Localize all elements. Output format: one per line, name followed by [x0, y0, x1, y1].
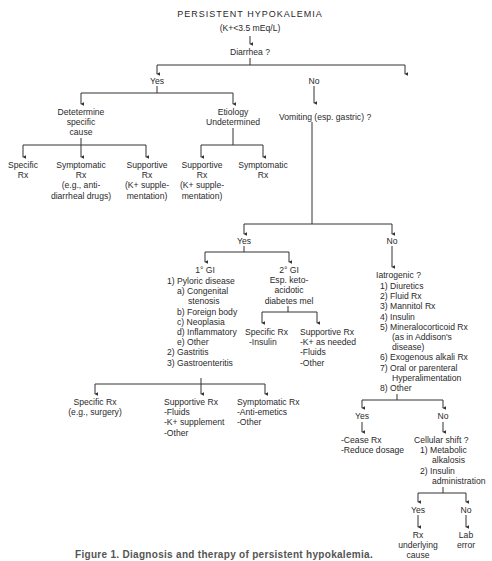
label-iatrogenic-yes: Yes	[342, 411, 382, 421]
node-primary-specific-rx: Specific Rx (e.g., surgery)	[62, 397, 128, 417]
list-item: 2) Gastritis	[167, 347, 237, 357]
node-secondary-gi: 2° GI Esp. keto- acidotic diabetes mel	[259, 265, 319, 306]
node-heading: Cellular shift ?	[414, 435, 486, 445]
node-line: cause	[393, 550, 443, 560]
list-item: 1) Diuretics	[380, 281, 468, 291]
node-line: -Other	[237, 417, 300, 427]
list-item: e) Other	[167, 337, 237, 347]
node-line: Detetermine	[46, 107, 116, 117]
list-item: 2) Fluid Rx	[380, 291, 468, 301]
node-line: Specific	[0, 160, 46, 170]
label-iatrogenic-no: No	[423, 411, 463, 421]
node-line: Rx	[46, 170, 116, 180]
list-item: d) Inflammatory	[167, 327, 237, 337]
node-line: -Reduce dosage	[341, 445, 404, 455]
list-iatrogenic-causes: 1) Diuretics 2) Fluid Rx 3) Mannitol Rx …	[380, 281, 468, 393]
list-item: 4) Insulin	[380, 312, 468, 322]
node-line: (e.g., anti-	[46, 180, 116, 190]
node-cellular-shift: Cellular shift ? 1) Metabolic alkalosis …	[414, 435, 486, 486]
node-primary-supportive-rx: Supportive Rx -Fluids -K+ supplement -Ot…	[164, 397, 224, 438]
node-rx-underlying-cause: Rx underlying cause	[393, 530, 443, 561]
node-line: Specific Rx	[62, 397, 128, 407]
figure-caption: Figure 1. Diagnosis and therapy of persi…	[75, 549, 373, 560]
node-etiology-undetermined: Etiology Undetermined	[193, 107, 273, 127]
node-line: Specific Rx	[245, 327, 288, 337]
node-supportive-rx: Supportive Rx (K+ supple- mentation)	[117, 160, 177, 201]
node-line: -Anti-emetics	[237, 407, 300, 417]
node-line: Undetermined	[193, 117, 273, 127]
label-vomiting-yes: Yes	[224, 236, 264, 246]
node-line: mentation)	[172, 191, 232, 201]
node-primary-symptomatic-rx: Symptomatic Rx -Anti-emetics -Other	[237, 397, 300, 428]
node-line: Rx	[393, 530, 443, 540]
list-item: 1) Pyloric disease	[167, 276, 237, 286]
list-item: alkalosis	[414, 455, 486, 465]
list-item: administration	[414, 476, 486, 486]
node-iatrogenic-yes-actions: -Cease Rx -Reduce dosage	[341, 435, 404, 455]
node-line: Symptomatic	[233, 160, 293, 170]
node-line: (e.g., surgery)	[62, 407, 128, 417]
node-line: -Fluids	[164, 407, 224, 417]
list-primary-gi-causes: 1) Pyloric disease a) Congenital stenosi…	[167, 276, 237, 368]
node-line: -Cease Rx	[341, 435, 404, 445]
chart-title: PERSISTENT HYPOKALEMIA	[150, 9, 350, 19]
list-item: 3) Gastroenteritis	[167, 358, 237, 368]
node-line: Supportive Rx	[164, 397, 224, 407]
node-line: Supportive Rx	[300, 327, 356, 337]
node-line: Rx	[172, 170, 232, 180]
node-line: Supportive	[172, 160, 232, 170]
node-line: diarrheal drugs)	[46, 191, 116, 201]
node-line: cause	[46, 127, 116, 137]
question-iatrogenic: Iatrogenic ?	[376, 270, 421, 280]
question-diarrhea: Diarrhea ?	[200, 47, 300, 57]
label-cellular-shift-no: No	[446, 505, 486, 515]
list-item: 3) Mannitol Rx	[380, 301, 468, 311]
list-item: stenosis	[167, 296, 237, 306]
list-item: disease)	[380, 342, 468, 352]
node-secondary-supportive-rx: Supportive Rx -K+ as needed -Fluids -Oth…	[300, 327, 356, 368]
node-line: Symptomatic	[46, 160, 116, 170]
node-line: -Insulin	[245, 337, 288, 347]
list-item: 6) Exogenous alkali Rx	[380, 352, 468, 362]
node-lab-error: Lab error	[446, 530, 486, 550]
list-item: c) Neoplasia	[167, 317, 237, 327]
question-vomiting: Vomiting (esp. gastric) ?	[279, 112, 371, 122]
label-cellular-shift-yes: Yes	[398, 505, 438, 515]
list-item: 8) Other	[380, 383, 468, 393]
node-supportive-rx-undetermined: Supportive Rx (K+ supple- mentation)	[172, 160, 232, 201]
node-primary-gi-heading: 1° GI	[185, 265, 225, 275]
node-line: diabetes mel	[259, 296, 319, 306]
node-line: Supportive	[117, 160, 177, 170]
list-item: Hyperalimentation	[380, 373, 468, 383]
node-line: specific	[46, 117, 116, 127]
node-line: -Other	[300, 358, 356, 368]
list-item: 5) Mineralocorticoid Rx	[380, 322, 468, 332]
node-secondary-specific-rx: Specific Rx -Insulin	[245, 327, 288, 347]
node-line: Rx	[233, 170, 293, 180]
list-item: (as in Addison's	[380, 332, 468, 342]
list-item: a) Congenital	[167, 286, 237, 296]
node-line: error	[446, 540, 486, 550]
label-diarrhea-no: No	[294, 76, 334, 86]
node-line: (K+ supple-	[117, 180, 177, 190]
node-symptomatic-rx: Symptomatic Rx (e.g., anti- diarrheal dr…	[46, 160, 116, 201]
list-item: 7) Oral or parenteral	[380, 363, 468, 373]
node-line: mentation)	[117, 191, 177, 201]
node-line: -K+ supplement	[164, 417, 224, 427]
node-line: (K+ supple-	[172, 180, 232, 190]
node-line: Etiology	[193, 107, 273, 117]
label-diarrhea-yes: Yes	[137, 76, 177, 86]
list-item: b) Foreign body	[167, 307, 237, 317]
node-line: Symptomatic Rx	[237, 397, 300, 407]
node-heading: 2° GI	[259, 265, 319, 275]
node-line: acidotic	[259, 285, 319, 295]
node-line: Rx	[117, 170, 177, 180]
node-determine-cause: Detetermine specific cause	[46, 107, 116, 138]
list-item: 1) Metabolic	[414, 445, 486, 455]
node-line: -Other	[164, 428, 224, 438]
chart-subtitle: (K+<3.5 mEq/L)	[180, 23, 320, 33]
node-line: Esp. keto-	[259, 275, 319, 285]
node-line: Lab	[446, 530, 486, 540]
node-line: -Fluids	[300, 347, 356, 357]
node-line: Rx	[0, 170, 46, 180]
